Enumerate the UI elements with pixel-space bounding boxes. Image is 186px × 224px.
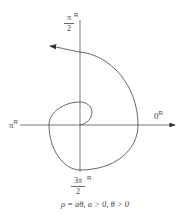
bottom-label-den: 2 <box>76 188 80 196</box>
top-label-den: 2 <box>67 25 71 33</box>
label-pi-over-2: π 2 <box>64 14 74 33</box>
top-label-sup: R <box>74 12 78 18</box>
right-label-sup: R <box>159 110 163 116</box>
label-pi: πR <box>9 119 18 130</box>
left-label-sup: R <box>14 119 18 125</box>
spiral-curve <box>49 46 138 170</box>
bottom-label-num: 3π <box>74 177 82 185</box>
label-zero: 0R <box>154 110 163 121</box>
bottom-label-sup: R <box>87 175 91 181</box>
equation-caption: ρ = aθ, a > 0, θ > 0 <box>30 199 160 209</box>
top-label-num: π <box>67 14 71 22</box>
label-3pi-over-2: 3π 2 <box>71 177 85 196</box>
